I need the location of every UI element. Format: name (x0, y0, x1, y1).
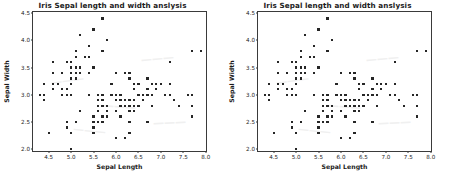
scatter-point (268, 99, 270, 101)
scatter-point (362, 94, 364, 96)
scatter-point (106, 115, 108, 117)
scatter-point (101, 94, 103, 96)
scatter-point (92, 132, 94, 134)
scatter-point (291, 94, 293, 96)
scatter-point (331, 115, 333, 117)
scatter-point (362, 83, 364, 85)
scatter-point (66, 121, 68, 123)
scatter-point (389, 94, 391, 96)
scatter-point (66, 61, 68, 63)
scatter-point (300, 77, 302, 79)
scatter-point (52, 88, 54, 90)
scatter-point (200, 50, 202, 52)
scatter-point (326, 94, 328, 96)
scatter-point (317, 28, 319, 30)
scatter-point (326, 17, 328, 19)
scatter-point (169, 61, 171, 63)
scatter-point (88, 94, 90, 96)
x-axis-tick: 5.5 (84, 151, 104, 160)
scatter-point (286, 88, 288, 90)
scatter-point (97, 105, 99, 107)
scatter-point (376, 94, 378, 96)
scatter-point (155, 83, 157, 85)
scatter-point (146, 94, 148, 96)
x-axis-tick: 5.0 (286, 151, 306, 160)
scatter-point (70, 148, 72, 150)
scatter-point (128, 99, 130, 101)
x-axis-tick: 7.5 (398, 151, 418, 160)
background-artifact: ——— (140, 51, 174, 67)
scatter-point (84, 56, 86, 58)
scatter-point (124, 99, 126, 101)
scatter-point (371, 77, 373, 79)
scatter-point (331, 105, 333, 107)
scatter-point (277, 61, 279, 63)
scatter-point (371, 121, 373, 123)
scatter-point (101, 115, 103, 117)
scatter-point (304, 66, 306, 68)
scatter-point (43, 94, 45, 96)
y-axis-label-text: Sepal Width (3, 60, 10, 102)
y-axis-tick: 3.0 (241, 92, 258, 98)
scatter-point (75, 66, 77, 68)
scatter-point (394, 61, 396, 63)
scatter-point (101, 105, 103, 107)
scatter-point (322, 110, 324, 112)
scatter-point (151, 105, 153, 107)
x-axis-tick: 6.5 (353, 151, 373, 160)
scatter-point (331, 110, 333, 112)
scatter-point (335, 94, 337, 96)
scatter-point (142, 99, 144, 101)
scatter-point (92, 126, 94, 128)
scatter-point (191, 115, 193, 117)
scatter-point (371, 94, 373, 96)
scatter-point (191, 105, 193, 107)
scatter-plot-area: ——————————————— (33, 12, 206, 151)
scatter-point (295, 132, 297, 134)
y-axis-tick: 3.0 (16, 92, 33, 98)
scatter-point (344, 94, 346, 96)
x-axis-tick: 5.0 (61, 151, 81, 160)
scatter-point (344, 115, 346, 117)
scatter-point (358, 83, 360, 85)
scatter-point (88, 56, 90, 58)
scatter-point (79, 72, 81, 74)
scatter-point (291, 121, 293, 123)
scatter-point (92, 66, 94, 68)
scatter-point (313, 56, 315, 58)
scatter-point (124, 72, 126, 74)
scatter-point (128, 105, 130, 107)
scatter-point (88, 72, 90, 74)
right-chart-panel: Iris Sepal length and width anslysis Sep… (225, 0, 450, 175)
background-artifact: ——— (365, 51, 399, 67)
scatter-point (326, 50, 328, 52)
scatter-point (416, 115, 418, 117)
scatter-point (128, 77, 130, 79)
scatter-point (178, 105, 180, 107)
scatter-point (313, 45, 315, 47)
scatter-point (416, 50, 418, 52)
scatter-point (322, 105, 324, 107)
scatter-point (304, 110, 306, 112)
x-axis-tick: 7.0 (151, 151, 171, 160)
scatter-point (322, 121, 324, 123)
scatter-point (52, 83, 54, 85)
scatter-point (106, 105, 108, 107)
scatter-point (151, 94, 153, 96)
scatter-point (101, 50, 103, 52)
scatter-point (304, 72, 306, 74)
scatter-point (169, 83, 171, 85)
scatter-point (340, 137, 342, 139)
scatter-point (97, 110, 99, 112)
scatter-point (191, 50, 193, 52)
scatter-point (137, 83, 139, 85)
scatter-point (286, 72, 288, 74)
scatter-point (75, 50, 77, 52)
scatter-point (403, 105, 405, 107)
scatter-point (317, 66, 319, 68)
scatter-point (291, 61, 293, 63)
scatter-point (394, 83, 396, 85)
x-axis-tick: 5.5 (309, 151, 329, 160)
scatter-point (119, 94, 121, 96)
scatter-point (367, 99, 369, 101)
